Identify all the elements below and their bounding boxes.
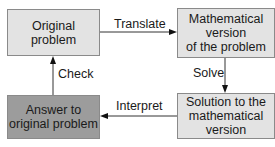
arrowhead-icon xyxy=(50,56,56,64)
box-line: Mathematical xyxy=(189,12,263,26)
solution-box: Solution to the mathematical version xyxy=(177,93,275,139)
check-label: Check xyxy=(58,67,93,81)
answer-box: Answer to original problem xyxy=(7,95,100,139)
box-line: version xyxy=(206,26,246,40)
box-line: Answer to xyxy=(26,103,82,117)
translate-label: Translate xyxy=(114,17,166,31)
box-line: of the problem xyxy=(186,40,266,54)
box-line: problem xyxy=(31,33,76,47)
arrowhead-icon xyxy=(169,29,177,35)
box-line: mathematical xyxy=(189,109,263,123)
interpret-label: Interpret xyxy=(116,99,163,113)
solve-label: Solve xyxy=(193,66,224,80)
math-version-box: Mathematical version of the problem xyxy=(177,8,275,58)
box-line: Solution to the xyxy=(186,95,266,109)
arrowhead-icon xyxy=(222,85,228,93)
arrowhead-icon xyxy=(100,113,108,119)
box-line: original problem xyxy=(9,117,98,131)
box-line: Original xyxy=(32,19,75,33)
original-problem-box: Original problem xyxy=(7,9,100,56)
box-line: version xyxy=(206,123,246,137)
